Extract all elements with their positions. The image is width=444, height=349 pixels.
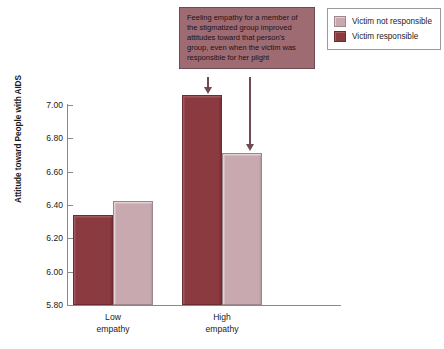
x-category-label-low-empathy-line2: empathy xyxy=(58,324,168,336)
legend-label-victim-not-responsible: Victim not responsible xyxy=(352,17,432,26)
x-category-label-low-empathy: Low empathy xyxy=(58,312,168,335)
x-category-label-high-empathy-line1: High xyxy=(167,312,277,324)
legend: Victim not responsible Victim responsibl… xyxy=(327,8,441,50)
legend-label-victim-responsible: Victim responsible xyxy=(352,32,418,41)
legend-swatch-icon-light xyxy=(334,16,346,27)
bar-low-empathy-victim-not-responsible xyxy=(113,201,153,305)
bar-low-empathy-victim-responsible xyxy=(73,215,113,305)
bar-chart-figure: Attitude toward People with AIDS 7.00 6.… xyxy=(0,0,444,349)
annotation-arrow-head-2 xyxy=(246,144,254,151)
annotation-callout: Feeling empathy for a member of the stig… xyxy=(179,7,315,69)
annotation-arrow-head-1 xyxy=(204,87,212,94)
bar-high-empathy-victim-not-responsible xyxy=(222,153,262,305)
x-category-label-low-empathy-line1: Low xyxy=(58,312,168,324)
x-category-label-high-empathy-line2: empathy xyxy=(167,324,277,336)
legend-item-victim-not-responsible: Victim not responsible xyxy=(334,14,436,29)
bar-high-empathy-victim-responsible xyxy=(182,95,222,305)
x-category-label-high-empathy: High empathy xyxy=(167,312,277,335)
legend-item-victim-responsible: Victim responsible xyxy=(334,29,436,44)
legend-swatch-icon-dark xyxy=(334,31,346,42)
annotation-arrow-stem-2 xyxy=(249,77,251,145)
